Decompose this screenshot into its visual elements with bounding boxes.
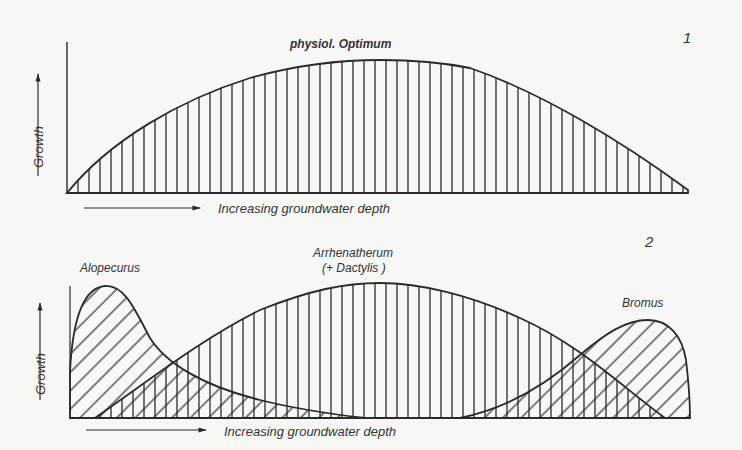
y-axis-label: Growth xyxy=(31,126,46,168)
growth-curve-area xyxy=(67,60,688,193)
figure: Growth Increasing groundwater depth phys… xyxy=(0,0,742,450)
bromus-label: Bromus xyxy=(622,296,663,310)
panel-1: Growth Increasing groundwater depth phys… xyxy=(31,29,691,216)
panel-number: 1 xyxy=(683,29,691,46)
arrhenatherum-label: Arrhenatherum xyxy=(312,246,393,260)
y-axis-label: Growth xyxy=(33,353,48,395)
alopecurus-label: Alopecurus xyxy=(79,261,140,275)
optimum-annotation: physiol. Optimum xyxy=(289,37,392,51)
x-axis-label: Increasing groundwater depth xyxy=(224,424,396,439)
dactylis-label: (+ Dactylis ) xyxy=(322,261,386,275)
panel-number: 2 xyxy=(644,233,654,250)
panel-2: Growth Increasing groundwater depth Alop… xyxy=(33,233,690,439)
x-axis-label: Increasing groundwater depth xyxy=(218,201,390,216)
